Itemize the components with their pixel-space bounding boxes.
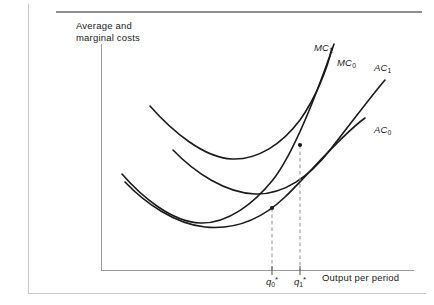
curve-label-mc0: MC0 <box>337 57 356 68</box>
point-ac1-minimum <box>298 143 302 147</box>
curve-label-ac0-subscript: 0 <box>388 129 392 136</box>
cost-curves-figure: Average and marginal costs Output per pe… <box>0 0 434 305</box>
curve-label-mc1-text: MC <box>314 42 329 53</box>
curve-label-mc1: MC1 <box>314 42 333 53</box>
curves-canvas <box>0 0 434 305</box>
curve-label-ac1: AC1 <box>374 62 392 73</box>
x-axis-marker-q1: q1* <box>294 276 306 287</box>
x-axis-marker-q0: q0* <box>266 276 278 287</box>
curve-ac0 <box>125 118 365 227</box>
curve-label-ac0: AC0 <box>374 124 392 135</box>
curve-label-mc0-subscript: 0 <box>352 62 356 69</box>
curve-label-mc0-text: MC <box>337 57 352 68</box>
curve-ac1 <box>173 80 385 194</box>
curve-label-ac1-text: AC <box>374 62 388 73</box>
curve-label-ac1-subscript: 1 <box>388 67 392 74</box>
x-axis-marker-q0-superscript: * <box>275 275 278 284</box>
curve-mc0 <box>122 44 334 223</box>
x-axis-marker-q1-superscript: * <box>303 275 306 284</box>
curve-mc1 <box>150 48 332 159</box>
curve-label-ac0-text: AC <box>374 124 388 135</box>
point-ac0-minimum <box>270 206 274 210</box>
curve-label-mc1-subscript: 1 <box>329 47 333 54</box>
